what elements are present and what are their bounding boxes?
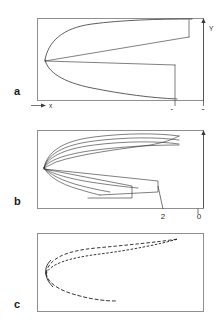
panel-a-upper-branch <box>45 19 192 60</box>
panel-b-ticklabel-2: 2 <box>161 212 166 220</box>
panel-a-lower-chord <box>45 61 175 65</box>
panel-b-bracket-lower-1 <box>44 169 158 195</box>
panel-b-curve-3-upper <box>44 142 179 168</box>
panel-c-upper-branch <box>46 239 178 273</box>
panel-a-frame <box>38 19 204 101</box>
panel-a-lower-branch <box>45 60 177 99</box>
panel-b-leader-2 <box>158 186 163 209</box>
panel-b-curve-4-upper <box>44 145 179 168</box>
panel-b: b 2 0 <box>0 110 219 220</box>
panel-c-inner-branch <box>46 239 178 274</box>
panel-b-curve-upper-return <box>44 136 179 168</box>
panel-b-label: b <box>14 195 21 207</box>
panel-c-label: c <box>14 298 20 310</box>
panel-b-curve-2-upper <box>44 138 179 168</box>
panel-c-lower-branch <box>46 273 116 301</box>
panel-a-label: a <box>14 85 21 97</box>
panel-c: c <box>0 220 219 329</box>
panel-a-x-arrowhead <box>41 103 46 107</box>
panel-a: a x Y 1 0 <box>0 0 219 110</box>
panel-a-ylabel: Y <box>209 25 214 32</box>
panel-a-xlabel: x <box>49 102 53 109</box>
panel-a-upper-chord <box>45 37 189 61</box>
figure-container: a x Y 1 0 <box>0 0 219 329</box>
panel-b-ticklabel-0: 0 <box>197 212 202 220</box>
